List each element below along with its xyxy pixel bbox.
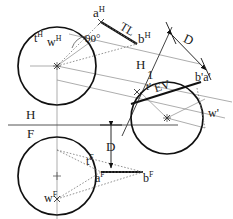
label-t-f: tF (86, 155, 94, 167)
label-t1: t' (146, 81, 151, 92)
label-w-h: wH (47, 36, 61, 48)
label-angle-90: 90° (85, 33, 100, 44)
label-w-f: wF (44, 192, 57, 204)
label-fold-h-top: H (26, 108, 35, 121)
technical-drawing-canvas: aH bH tH wH tF wF aF bF b'a' t' w' TL EV… (0, 0, 233, 219)
label-a-f: aF (95, 172, 105, 184)
label-fold-f-bottom: F (27, 127, 34, 140)
label-w1: w' (208, 107, 219, 119)
label-b-f: bF (143, 172, 153, 184)
label-dim-d-lower: D (106, 140, 115, 153)
label-b1a1: b'a' (195, 71, 211, 83)
label-fold-1-lower: 1 (147, 68, 154, 81)
label-a-h: aH (93, 6, 105, 19)
label-t-h: tH (34, 32, 43, 44)
label-b-h: bH (138, 32, 151, 45)
label-fold-h-upper: H (136, 58, 145, 71)
